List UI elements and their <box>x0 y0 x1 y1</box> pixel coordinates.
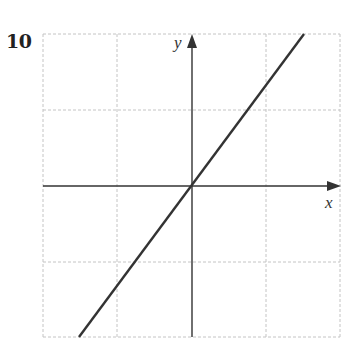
x-axis-label: x <box>324 193 333 212</box>
coordinate-graph: x y <box>0 0 356 347</box>
y-axis-arrow-icon <box>187 34 197 48</box>
y-axis-label: y <box>172 33 182 52</box>
x-axis-arrow-icon <box>327 181 341 191</box>
